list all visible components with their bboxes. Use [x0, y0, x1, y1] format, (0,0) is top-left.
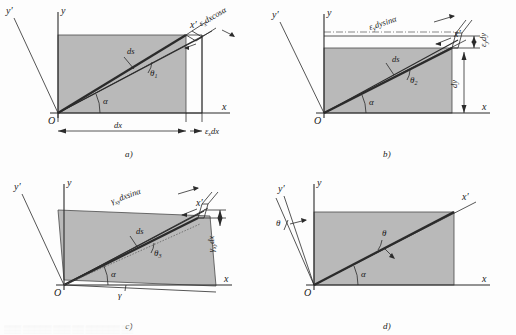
y-prime-axis-d	[276, 198, 314, 285]
projection-arrowhead2-a	[229, 32, 235, 37]
panel-caption-d: d)	[258, 321, 516, 331]
dx-arrow-right-a	[178, 129, 186, 134]
theta-axis-label-d: θ	[276, 218, 281, 228]
projection-leader2-b	[462, 20, 472, 33]
panel-d: y x O x′ y′ θ θ α d)	[258, 168, 516, 335]
origin-label-a: O	[48, 115, 55, 126]
y-prime-label-b: y′	[271, 9, 279, 20]
y-prime-axis-c	[22, 194, 64, 285]
projection-leader2-a	[202, 28, 216, 37]
x-prime-label-c: x′	[195, 197, 203, 208]
x-axis-label-b: x	[481, 101, 487, 112]
panel-caption-b: b)	[258, 149, 516, 159]
epsilon-x-dx-label-a: εxdx	[205, 126, 219, 137]
alpha-label-a: α	[103, 96, 108, 106]
dy-arrow-top-b	[462, 52, 467, 60]
projection-leader-c	[202, 192, 212, 204]
y-prime-label-c: y′	[13, 181, 21, 192]
panel-b: y x O x′ y′ ds θ2 α	[258, 0, 516, 167]
alpha-label-c: α	[111, 269, 116, 279]
projection-arrowhead2-c	[193, 186, 199, 191]
theta-axis-arrowhead-d	[301, 218, 307, 223]
gamma-baseline-c	[64, 285, 216, 292]
x-axis-label-c: x	[223, 273, 229, 284]
projection-label-group-a: εxdxcosα	[197, 4, 229, 29]
gamma-xy-dx-label-c: γxydx	[206, 235, 217, 252]
dy-label-group-b: dy	[449, 80, 459, 88]
y-prime-label-d: y′	[277, 183, 285, 194]
projection-label-group-b: εydysinα	[368, 13, 399, 32]
eps-dy-label-group-b: εydy	[478, 33, 489, 47]
panel-a: y x O x′ y′ ds θ1 α	[0, 0, 258, 167]
y-prime-label-a: y′	[5, 5, 13, 16]
ds-label-c: ds	[136, 226, 144, 236]
epsilon-y-dy-label-b: εydy	[478, 33, 489, 47]
y-prime-axis-b	[280, 22, 324, 113]
dy-label-b: dy	[449, 80, 459, 88]
dx-arrow-left-a	[58, 129, 66, 134]
page-bleed-text: ▒▒▒ ▒▒▒▒▒ ▒▒▒ ▒▒ ▒▒▒▒▒▒ ▒▒	[4, 325, 234, 334]
projection-arrowhead-b	[435, 42, 441, 46]
x-prime-label-d: x′	[461, 191, 469, 202]
gamma-dx-label-group-c: γxydx	[206, 235, 217, 252]
x-axis-label-d: x	[481, 273, 487, 284]
theta-diag-label-d: θ	[382, 228, 387, 238]
ds-label-b: ds	[392, 54, 400, 64]
dy-arrow-bot-b	[462, 105, 467, 113]
projection-leader-b	[456, 20, 466, 33]
eps-dy-arrow-bot-b	[472, 41, 477, 48]
dx-label-a: dx	[114, 120, 122, 130]
gamma-dx-arrow-top-c	[218, 210, 223, 218]
origin-label-d: O	[304, 287, 311, 298]
eps-dx-arrow-a	[194, 129, 202, 134]
x-axis-label-a: x	[221, 101, 227, 112]
gamma-xy-dx-sin-label-c: γxydxsinα	[109, 186, 142, 207]
epsilon-y-dy-sin-label-b: εydysinα	[368, 13, 399, 32]
y-axis-label-d: y	[316, 177, 322, 188]
origin-label-b: O	[314, 115, 321, 126]
projection-leader2-c	[208, 192, 218, 204]
y-axis-label-a: y	[60, 5, 66, 16]
y-axis-label-c: y	[66, 177, 72, 188]
panel-c: y x O x′ y′ ds θ3 α γ	[0, 168, 258, 335]
ds-label-a: ds	[127, 46, 135, 56]
origin-label-c: O	[54, 287, 61, 298]
epsilon-x-dx-cos-label-a: εxdxcosα	[197, 4, 229, 29]
x-prime-label-b: x′	[453, 28, 461, 39]
projection-label-group-c: γxydxsinα	[109, 186, 142, 207]
gamma-dx-arrow-bot-c	[218, 218, 223, 226]
y-axis-label-b: y	[326, 7, 332, 18]
y-prime-axis2-d	[284, 196, 314, 285]
figure-grid: y x O x′ y′ ds θ1 α	[0, 0, 516, 335]
y-prime-axis-a	[14, 18, 58, 113]
gamma-label-c: γ	[118, 290, 122, 300]
projection-parallelogram-a	[186, 31, 202, 41]
alpha-label-b: α	[369, 97, 374, 107]
alpha-label-d: α	[361, 269, 366, 279]
projection-arrowhead2-b	[449, 14, 455, 19]
panel-caption-a: a)	[0, 149, 258, 159]
